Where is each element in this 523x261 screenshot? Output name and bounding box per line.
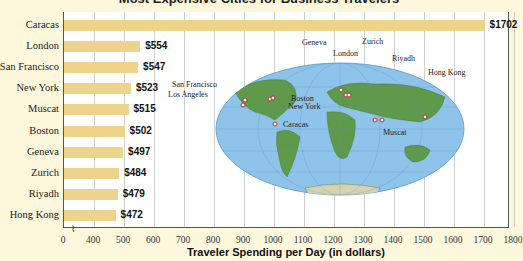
x-tick-label: 400: [86, 235, 100, 245]
x-tick-label: 1200: [324, 235, 343, 245]
x-tick-label: 1500: [414, 235, 433, 245]
map-label-caracas: Caracas: [283, 120, 308, 129]
bar: [64, 83, 131, 94]
x-tick-label: 1100: [294, 235, 313, 245]
chart-title: Most Expensive Cities for Business Trave…: [0, 0, 518, 6]
gridline: [184, 12, 185, 227]
category-label: Zurich: [31, 167, 59, 178]
bar-value-label: $484: [124, 167, 146, 178]
bar-value-label: $547: [143, 61, 165, 72]
x-tick-label: 1700: [474, 235, 493, 245]
world-map-inset: [215, 62, 465, 197]
bar: [64, 210, 116, 221]
category-label: Caracas: [26, 19, 59, 30]
map-label-san-francisco: San Francisco: [172, 80, 217, 89]
category-label: Hong Kong: [10, 209, 59, 220]
bar-value-label: $515: [134, 103, 156, 114]
map-label-london: London: [333, 49, 358, 58]
bar-value-label: $472: [121, 209, 143, 220]
x-tick-label: 800: [206, 235, 220, 245]
category-label: London: [26, 40, 59, 51]
x-tick-label: 1300: [354, 235, 373, 245]
x-tick-label: 600: [146, 235, 160, 245]
map-label-hong-kong: Hong Kong: [428, 68, 466, 77]
x-tick-label: 1400: [384, 235, 403, 245]
map-label-new-york: New York: [288, 102, 320, 111]
bar-value-label: $554: [145, 40, 167, 51]
x-tick-label: 1000: [264, 235, 283, 245]
category-label: Geneva: [27, 146, 59, 157]
bar-value-label: $502: [130, 125, 152, 136]
x-tick-label: 700: [176, 235, 190, 245]
map-label-riyadh: Riyadh: [392, 54, 415, 63]
map-label-zurich: Zurich: [362, 37, 383, 46]
gridline: [514, 12, 515, 227]
bar: [64, 62, 138, 73]
x-tick-label: 0: [61, 235, 66, 245]
bar: [64, 41, 140, 52]
category-label: Boston: [29, 125, 59, 136]
bar-value-label: $1702: [490, 19, 518, 30]
category-label: Riyadh: [29, 188, 59, 199]
bar: [64, 147, 123, 158]
category-label: San Francisco: [0, 61, 59, 72]
bar: [64, 168, 119, 179]
map-label-geneva: Geneva: [302, 38, 326, 47]
x-tick-label: 1800: [504, 235, 523, 245]
bar-value-label: $523: [136, 82, 158, 93]
bar-value-label: $497: [128, 146, 150, 157]
bar: [64, 104, 129, 115]
x-tick-label: 1600: [444, 235, 463, 245]
map-label-los-angeles: Los Angeles: [168, 90, 208, 99]
x-tick-label: 500: [116, 235, 130, 245]
bar-value-label: $479: [123, 188, 145, 199]
bar: [64, 126, 125, 137]
x-axis-label: Traveler Spending per Day (in dollars): [63, 246, 509, 258]
x-tick-label: 900: [236, 235, 250, 245]
category-label: Muscat: [28, 103, 59, 114]
gridline: [484, 12, 485, 227]
bar: [64, 20, 485, 31]
bar: [64, 189, 118, 200]
axis-break-icon: ⌇: [71, 224, 75, 234]
category-label: New York: [16, 82, 59, 93]
map-label-muscat: Muscat: [383, 128, 407, 137]
